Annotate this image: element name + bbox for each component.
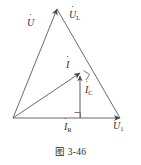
figure-caption: 图 3-46 — [0, 144, 141, 158]
label-capacitor-current-subscript: C — [88, 89, 92, 96]
right-angle-at-current-tip — [84, 71, 90, 81]
figure-container: U UL I IC IR U1 图 3-46 — [0, 0, 141, 165]
label-inductor-voltage-subscript: L — [76, 14, 80, 21]
label-source-voltage-symbol: U — [27, 17, 34, 28]
overdot-icon — [72, 6, 74, 8]
label-output-voltage: U1 — [113, 121, 123, 131]
overdot-icon — [30, 14, 32, 16]
vector-U-line — [13, 9, 57, 118]
overdot-icon — [65, 118, 67, 120]
label-output-voltage-subscript: 1 — [120, 125, 123, 132]
label-resistor-current: IR — [64, 122, 72, 132]
label-total-current: I — [66, 60, 69, 70]
label-source-voltage: U — [27, 18, 34, 28]
label-capacitor-current: IC — [85, 85, 93, 95]
overdot-icon — [67, 56, 69, 58]
label-inductor-voltage: UL — [69, 10, 80, 20]
label-resistor-current-subscript: R — [67, 126, 71, 133]
overdot-icon — [116, 117, 118, 119]
label-total-current-symbol: I — [66, 59, 69, 70]
vector-I-line — [13, 73, 80, 118]
overdot-icon — [86, 81, 88, 83]
